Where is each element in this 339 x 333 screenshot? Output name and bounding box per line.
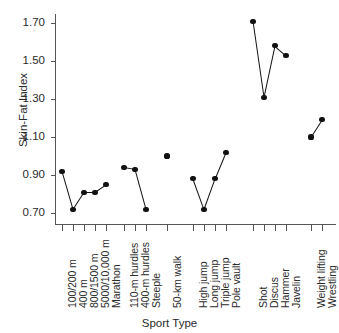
x-category-label: Marathon <box>110 264 122 308</box>
data-point-marker <box>121 165 126 170</box>
x-category-label: 50-km walk <box>171 256 183 308</box>
series-connector-segment <box>134 170 146 210</box>
y-tick-mark <box>51 137 56 138</box>
y-tick-mark <box>51 99 56 100</box>
x-tick-mark <box>311 225 312 231</box>
x-tick-mark <box>146 225 147 231</box>
x-category-label: Wrestling <box>326 265 338 308</box>
series-connector-segment <box>263 46 275 98</box>
data-point-marker <box>308 134 313 139</box>
x-axis-line <box>55 224 336 225</box>
data-point-marker <box>261 95 266 100</box>
data-point-marker <box>250 19 255 24</box>
x-tick-mark <box>62 225 63 231</box>
x-tick-mark <box>204 225 205 231</box>
data-point-marker <box>283 53 288 58</box>
data-point-marker <box>59 169 64 174</box>
data-point-marker <box>164 153 169 158</box>
data-point-marker <box>212 176 217 181</box>
x-category-label: Javelin <box>290 276 302 308</box>
x-axis-title: Sport Type <box>0 317 339 329</box>
x-tick-mark <box>193 225 194 231</box>
y-tick-label: 1.70 <box>9 16 45 28</box>
x-tick-mark <box>95 225 96 231</box>
series-connector-segment <box>252 22 264 98</box>
x-tick-mark <box>322 225 323 231</box>
x-tick-mark <box>84 225 85 231</box>
y-tick-label: 0.90 <box>9 168 45 180</box>
x-tick-mark <box>167 225 168 231</box>
series-connector-segment <box>203 179 215 210</box>
x-category-label: Steeple <box>150 273 162 308</box>
x-tick-mark <box>275 225 276 231</box>
data-point-marker <box>143 207 148 212</box>
data-point-marker <box>132 167 137 172</box>
x-tick-mark <box>264 225 265 231</box>
y-tick-mark <box>51 61 56 62</box>
data-point-marker <box>103 182 108 187</box>
data-point-marker <box>319 117 324 122</box>
y-tick-label: 1.50 <box>9 54 45 66</box>
data-point-marker <box>223 150 228 155</box>
y-tick-label: 1.10 <box>9 130 45 142</box>
data-point-marker <box>70 207 75 212</box>
y-axis-line <box>55 14 56 224</box>
x-tick-mark <box>253 225 254 231</box>
x-tick-mark <box>226 225 227 231</box>
y-tick-label: 0.70 <box>9 206 45 218</box>
x-tick-mark <box>73 225 74 231</box>
data-point-marker <box>201 207 206 212</box>
data-point-marker <box>272 43 277 48</box>
data-point-marker <box>92 190 97 195</box>
series-connector-segment <box>192 179 204 210</box>
series-connector-segment <box>61 172 73 210</box>
y-tick-mark <box>51 213 56 214</box>
x-tick-mark <box>215 225 216 231</box>
y-tick-label: 1.30 <box>9 92 45 104</box>
data-point-marker <box>81 190 86 195</box>
y-tick-mark <box>51 175 56 176</box>
data-point-marker <box>190 176 195 181</box>
x-category-label: Pole vault <box>230 263 242 308</box>
x-tick-mark <box>124 225 125 231</box>
x-tick-mark <box>106 225 107 231</box>
x-tick-mark <box>286 225 287 231</box>
chart-figure: Skin-Fat Index Sport Type 0.700.901.101.… <box>0 0 339 333</box>
y-tick-mark <box>51 23 56 24</box>
x-tick-mark <box>135 225 136 231</box>
